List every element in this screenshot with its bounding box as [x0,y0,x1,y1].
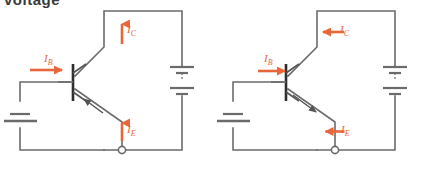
circuit-diagram-svg: IC IB IE [0,0,426,169]
pnp-transistor-circuit: IC IB IE [4,11,194,154]
pnp-collector-supply-battery [170,67,194,94]
pnp-base-current-label: IB [43,52,53,67]
npn-transistor-circuit: IC IB IE [217,11,407,154]
npn-common-node [331,146,338,153]
pnp-wires [20,11,182,150]
npn-base-supply-battery [217,114,250,121]
pnp-collector-current-label: IC [126,23,137,38]
pnp-emitter-current-label: IE [126,123,136,138]
npn-emitter-arrow-icon [293,95,316,112]
npn-base-current-label: IB [263,52,273,67]
figure-canvas: voltage [0,0,426,169]
pnp-common-node [118,146,125,153]
npn-wires [233,11,395,150]
npn-collector-supply-battery [383,67,407,94]
npn-emitter-current-label: IE [340,123,350,138]
npn-collector-current-label: IC [339,23,350,38]
pnp-base-supply-battery [4,114,37,121]
